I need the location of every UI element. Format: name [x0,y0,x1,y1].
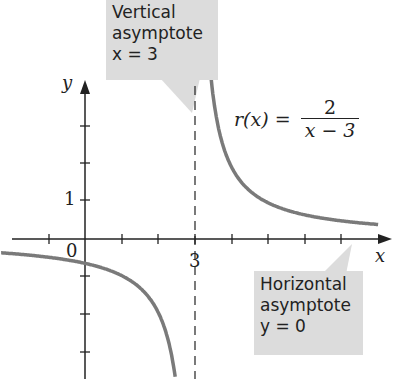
y-axis-label: y [62,72,72,93]
y-tick-label-1: 1 [64,188,75,209]
callout-line: x = 3 [112,44,212,65]
curve-right-branch [210,61,379,225]
formula-denominator: x − 3 [301,119,360,141]
formula-lhs: r(x) = [234,108,291,130]
horizontal-asymptote-callout: Horizontal asymptote y = 0 [254,271,363,355]
callout-line: y = 0 [260,316,357,337]
x-tick-label-3: 3 [189,250,200,271]
callout-line: Vertical [112,2,212,23]
callout-line: Horizontal [260,274,357,295]
x-axis-arrow-icon [378,234,392,244]
callout-line: asymptote [260,295,357,316]
horizontal-callout-pointer [322,244,352,274]
x-axis-label: x [375,245,385,266]
formula-fraction: 2 x − 3 [301,96,360,141]
vertical-asymptote-callout: Vertical asymptote x = 3 [106,0,218,80]
origin-label: 0 [66,240,77,261]
vertical-callout-pointer [160,78,200,113]
callout-line: asymptote [112,23,212,44]
function-formula: r(x) = 2 x − 3 [234,96,359,141]
formula-numerator: 2 [301,96,360,119]
curve-left-branch [1,253,175,377]
y-axis-arrow-icon [80,80,90,94]
